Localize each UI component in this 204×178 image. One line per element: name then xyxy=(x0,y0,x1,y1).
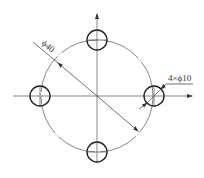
pcd-label: ϕ40 xyxy=(40,38,57,55)
pcd-dimension: ϕ40 xyxy=(33,38,138,131)
bolt-circle-drawing: ϕ40 4×ϕ10 xyxy=(0,0,204,178)
holes-label: 4×ϕ10 xyxy=(168,73,192,83)
